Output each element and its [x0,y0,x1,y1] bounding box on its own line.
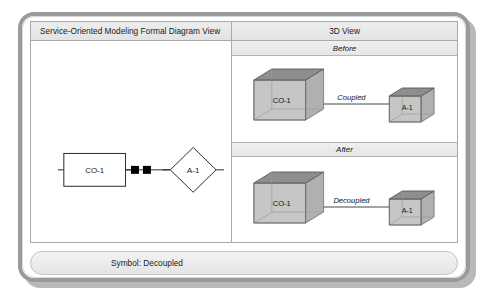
right-panel-title: 3D View [232,22,457,40]
left-panel-title: Service-Oriented Modeling Formal Diagram… [31,22,232,40]
formal-diagram-panel: CO-1 A-1 [31,41,232,242]
connector-marker-square-2 [143,166,151,174]
scene-before-svg: CO-1 A-1 Coupled [232,56,457,142]
small-cube-before: A-1 [389,88,434,122]
big-cube-label-after: CO-1 [273,199,291,208]
big-cube-before: CO-1 [254,69,324,120]
relation-label-after: Decoupled [333,196,370,205]
diagram-diamond-label: A-1 [187,166,200,175]
comparison-table: Service-Oriented Modeling Formal Diagram… [30,21,458,243]
scene-after-svg: CO-1 A-1 Decoupled [232,157,457,244]
connector-marker-square-1 [131,166,139,174]
diagram-rect-label: CO-1 [85,166,105,175]
scene-before: CO-1 A-1 Coupled [232,56,457,142]
big-cube-after: CO-1 [254,172,324,223]
band-label-before: Before [232,41,457,56]
caption-text: Symbol: Decoupled [31,258,263,268]
table-header-row: Service-Oriented Modeling Formal Diagram… [31,22,457,41]
band-label-after: After [232,142,457,157]
relation-label-before: Coupled [337,93,366,102]
big-cube-label-before: CO-1 [273,96,291,105]
figure-root: Service-Oriented Modeling Formal Diagram… [0,0,489,301]
small-cube-label-before: A-1 [402,104,413,112]
small-cube-after: A-1 [389,191,434,225]
small-cube-label-after: A-1 [402,207,413,215]
scene-after: CO-1 A-1 Decoupled [232,157,457,244]
three-d-panel: Before CO-1 [232,41,457,242]
formal-diagram-svg: CO-1 A-1 [31,41,231,242]
caption-bar: Symbol: Decoupled [30,251,458,275]
